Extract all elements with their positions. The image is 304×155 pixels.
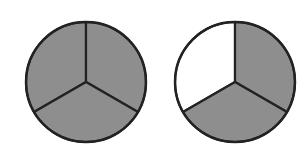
right-circle [175,22,295,142]
fraction-circles-figure [0,0,304,155]
left-circle [26,22,146,142]
circles-svg [0,0,304,155]
